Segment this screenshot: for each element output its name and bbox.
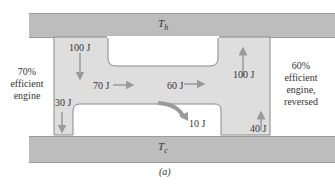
figure-caption: (a) xyxy=(159,166,171,177)
right-engine-label: 60% efficient engine, reversed xyxy=(275,60,327,108)
right-engine-heat-in: 40 J xyxy=(250,123,266,134)
left-engine-label: 70% efficient engine xyxy=(4,66,50,102)
left-engine-heat-in: 100 J xyxy=(69,42,90,53)
right-engine-heat-out: 100 J xyxy=(233,69,254,80)
left-engine-heat-out: 30 J xyxy=(55,97,71,108)
left-engine-work: 70 J xyxy=(93,80,109,91)
right-engine-work: 60 J xyxy=(167,80,183,91)
excess-work: 10 J xyxy=(189,118,205,129)
